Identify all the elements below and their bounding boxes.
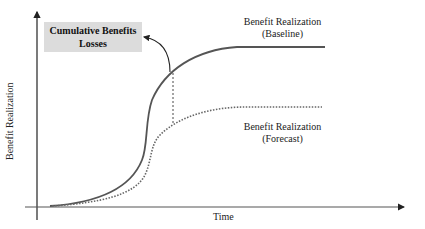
baseline-label-line-2: (Baseline) xyxy=(230,28,335,40)
baseline-label: Benefit Realization (Baseline) xyxy=(230,16,335,40)
y-axis-label: Benefit Realization xyxy=(4,83,15,160)
cumulative-benefits-losses-callout: Cumulative Benefits Losses xyxy=(44,22,142,52)
forecast-label-line-1: Benefit Realization xyxy=(230,121,335,133)
callout-line-2: Losses xyxy=(44,37,142,50)
callout-arrow xyxy=(144,37,170,72)
baseline-label-line-1: Benefit Realization xyxy=(230,16,335,28)
callout-line-1: Cumulative Benefits xyxy=(44,24,142,37)
forecast-label: Benefit Realization (Forecast) xyxy=(230,121,335,145)
forecast-label-line-2: (Forecast) xyxy=(230,133,335,145)
x-axis-label: Time xyxy=(213,211,253,223)
